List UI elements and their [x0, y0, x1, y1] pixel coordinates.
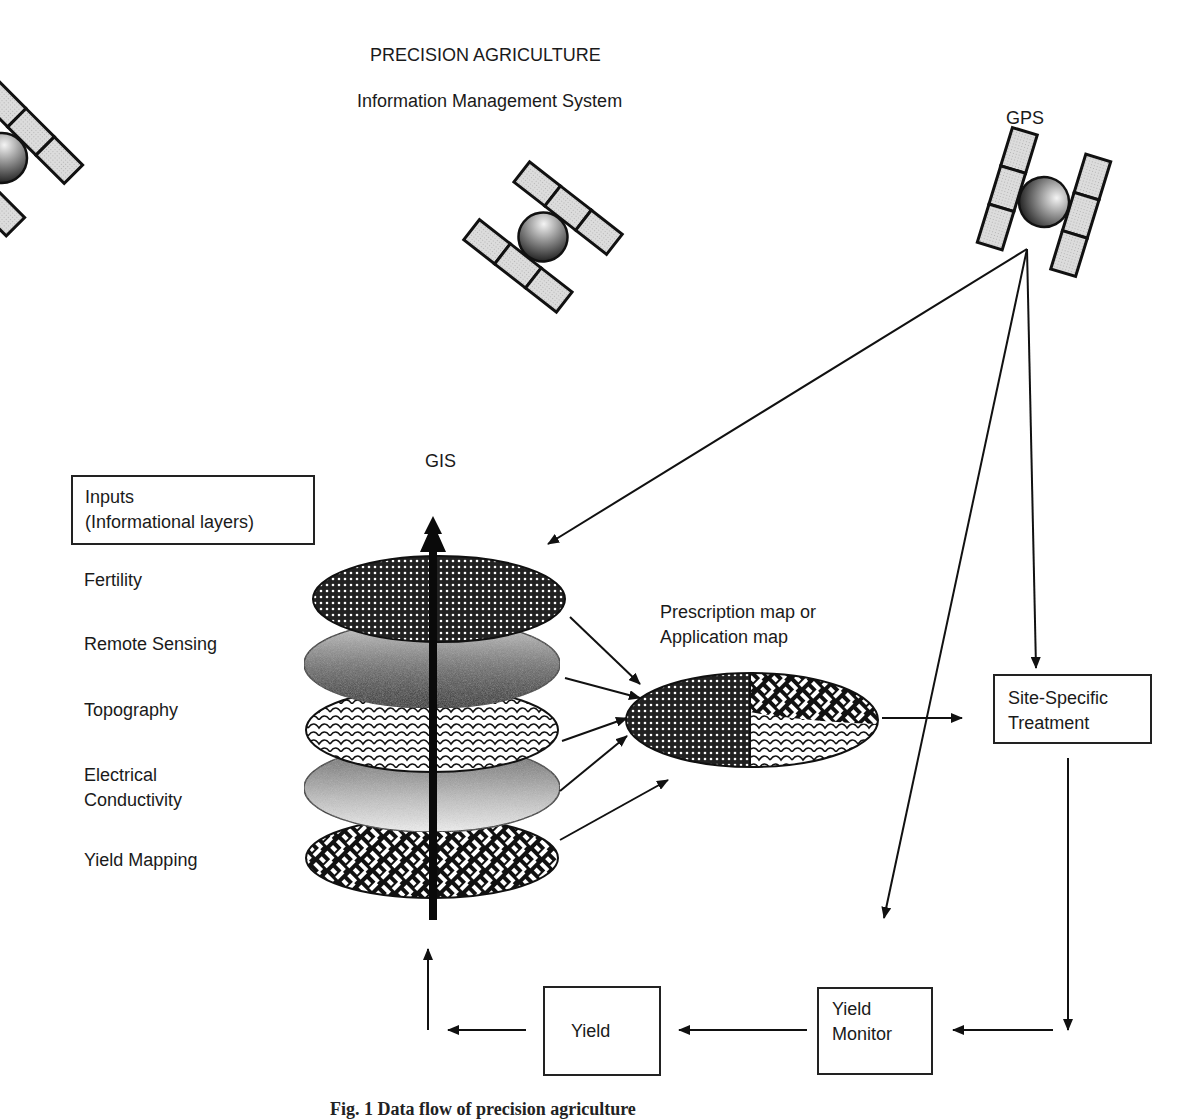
site-specific-label-2: Treatment — [1008, 710, 1089, 736]
yield-monitor-box: Yield Monitor — [817, 987, 933, 1075]
diagram-subtitle: Information Management System — [357, 88, 622, 114]
input-label-yield-mapping: Yield Mapping — [84, 847, 197, 873]
prescription-map-label-2: Application map — [660, 624, 788, 650]
gis-label: GIS — [425, 448, 456, 474]
yield-label: Yield — [571, 1018, 610, 1044]
site-specific-label-1: Site-Specific — [1008, 685, 1108, 711]
yield-monitor-label-1: Yield — [832, 996, 871, 1022]
inputs-box: Inputs (Informational layers) — [71, 475, 315, 545]
input-label-topography: Topography — [84, 697, 178, 723]
input-label-fertility: Fertility — [84, 567, 142, 593]
satellite-icon-gps — [976, 128, 1112, 277]
site-specific-treatment-box: Site-Specific Treatment — [993, 674, 1152, 744]
yield-box: Yield — [543, 986, 661, 1076]
prescription-map-label-1: Prescription map or — [660, 599, 816, 625]
diagram-title: PRECISION AGRICULTURE — [370, 42, 601, 68]
figure-caption: Fig. 1 Data flow of precision agricultur… — [330, 1099, 636, 1120]
satellite-icon-left-partial — [0, 77, 83, 238]
gps-label: GPS — [1006, 105, 1044, 131]
yield-monitor-label-2: Monitor — [832, 1021, 892, 1047]
inputs-box-subtitle: (Informational layers) — [85, 509, 254, 535]
input-label-remote-sensing: Remote Sensing — [84, 631, 217, 657]
inputs-box-title: Inputs — [85, 484, 134, 510]
layer-fertility — [313, 556, 565, 642]
satellite-icon-center — [464, 159, 623, 314]
input-label-electrical: Electrical — [84, 762, 157, 788]
gps-signal-lines — [548, 249, 1036, 918]
prescription-map — [620, 670, 882, 770]
input-label-conductivity: Conductivity — [84, 787, 182, 813]
